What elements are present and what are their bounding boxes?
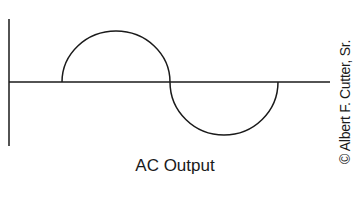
copyright-credit: © Albert F. Cutter, Sr.	[337, 40, 353, 164]
positive-half-cycle	[62, 31, 170, 82]
negative-half-cycle	[170, 82, 278, 135]
diagram-caption: AC Output	[100, 156, 250, 176]
